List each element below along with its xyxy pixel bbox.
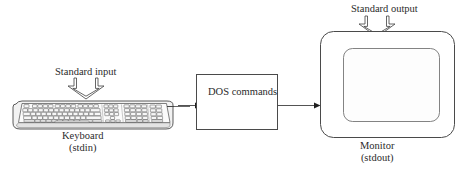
standard-output-label: Standard output [351,3,418,15]
monitor-caption-stream: (stdout) [360,152,394,164]
keyboard-caption: Keyboard (stdin) [62,130,103,154]
dos-commands-label-line1: DOS [208,86,229,97]
monitor-caption-name: Monitor [360,140,394,152]
keyboard-caption-name: Keyboard [62,130,103,142]
standard-input-label: Standard input [55,66,117,78]
dos-commands-label-line2: commands [232,86,278,97]
keyboard-caption-stream: (stdin) [62,142,103,154]
dos-commands-label: DOS commands [208,85,277,98]
keyboard-illustration [13,101,173,129]
diagram-canvas: Standard input Standard output DOS comma… [0,0,460,183]
standard-input-arrow-icon [68,78,104,99]
monitor-illustration [321,32,455,138]
dos-commands-box [197,75,278,130]
edge-dos-to-monitor [278,103,321,109]
monitor-caption: Monitor (stdout) [360,140,394,164]
